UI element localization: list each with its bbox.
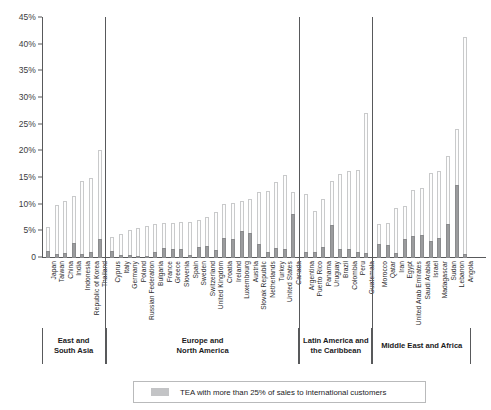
category-label: Morocco bbox=[382, 261, 389, 287]
bar-segment-international bbox=[330, 225, 334, 258]
category-label: United Arab Emirates bbox=[416, 261, 423, 325]
bar-poland bbox=[136, 228, 140, 257]
bar-segment-international bbox=[110, 251, 114, 258]
y-axis-tick-mark bbox=[38, 203, 42, 204]
legend-swatch-international bbox=[151, 388, 169, 396]
bar-segment-international bbox=[205, 246, 209, 258]
category-label: Japan bbox=[51, 261, 58, 279]
bar-panama bbox=[321, 199, 325, 257]
category-label: Croatia bbox=[227, 261, 234, 283]
bar-turkey bbox=[274, 182, 278, 257]
category-label: Slovak Republic bbox=[261, 261, 268, 310]
bar-germany bbox=[128, 230, 132, 257]
category-label: Angola bbox=[468, 261, 475, 282]
bar-india bbox=[72, 196, 76, 257]
bar-austria bbox=[248, 199, 252, 257]
bar-sweden bbox=[197, 220, 201, 257]
bar-segment-international bbox=[72, 243, 76, 258]
group-label-text: East andSouth Asia bbox=[54, 336, 93, 356]
bar-madagascar bbox=[437, 171, 441, 257]
category-label: Indonesia bbox=[85, 261, 92, 291]
bar-segment-international bbox=[162, 248, 166, 258]
category-label: Puerto Rico bbox=[317, 261, 324, 297]
bar-segment-international bbox=[248, 233, 252, 258]
category-label: Cyprus bbox=[115, 261, 122, 283]
category-label: Brazil bbox=[343, 261, 350, 278]
bar-sudan bbox=[446, 156, 450, 257]
group-label-text: Latin America andthe Caribbean bbox=[303, 336, 369, 356]
bar-segment-international bbox=[266, 252, 270, 258]
category-label: Austria bbox=[253, 261, 260, 282]
category-label: Qatar bbox=[390, 261, 397, 278]
category-label: Lebanon bbox=[459, 261, 466, 287]
bar-segment-international bbox=[377, 244, 381, 258]
chart-figure: 05%10%15%20%25%30%35%40%45% JapanTaiwanC… bbox=[0, 0, 491, 410]
bar-switzerland bbox=[205, 217, 209, 257]
bar-segment-international bbox=[347, 249, 351, 258]
bar-japan bbox=[46, 227, 50, 257]
bar-lebanon bbox=[455, 129, 459, 257]
plot-area: 05%10%15%20%25%30%35%40%45% bbox=[42, 17, 486, 257]
group-separator bbox=[372, 17, 373, 328]
category-label: Greece bbox=[175, 261, 182, 283]
bar-cyprus bbox=[110, 237, 114, 257]
category-label: Slovenia bbox=[184, 261, 191, 287]
category-label: Egypt bbox=[407, 261, 414, 278]
bar-segment-international bbox=[437, 238, 441, 258]
category-label: Switzerland bbox=[210, 261, 217, 296]
bar-segment-international bbox=[145, 256, 149, 258]
category-label: India bbox=[76, 261, 83, 276]
bar-republic-of-korea bbox=[89, 178, 93, 257]
category-label: Netherlands bbox=[270, 261, 277, 298]
bar-segment-international bbox=[153, 252, 157, 258]
chart-legend: TEA with more than 25% of sales to inter… bbox=[133, 381, 426, 403]
category-label: Taiwan bbox=[59, 261, 66, 282]
bar-saudi-arabia bbox=[420, 188, 424, 257]
bar-segment-international bbox=[188, 255, 192, 258]
category-label: Madagascar bbox=[442, 261, 449, 298]
bar-segment-international bbox=[420, 235, 424, 258]
category-label: Sweden bbox=[201, 261, 208, 285]
bar-iran bbox=[394, 208, 398, 257]
category-label: Sudan bbox=[451, 261, 458, 281]
bar-slovak-republic bbox=[257, 192, 261, 257]
bar-indonesia bbox=[80, 181, 84, 257]
bar-morocco bbox=[377, 224, 381, 257]
bar-segment-international bbox=[257, 244, 261, 258]
bar-united-states bbox=[283, 175, 287, 257]
bar-segment-international bbox=[55, 254, 59, 258]
bar-segment-international bbox=[386, 245, 390, 258]
bar-brazil bbox=[338, 174, 342, 257]
bar-segment-international bbox=[321, 247, 325, 258]
bar-spain bbox=[188, 222, 192, 257]
bar-thailand bbox=[98, 150, 102, 257]
bar-guatemala bbox=[364, 113, 368, 257]
group-label-text: Europe andNorth America bbox=[177, 336, 229, 356]
group-label-box: Europe andNorth America bbox=[106, 328, 300, 364]
bar-segment-international bbox=[179, 249, 183, 258]
y-axis-tick-mark bbox=[38, 150, 42, 151]
bar-china bbox=[63, 201, 67, 257]
bar-angola bbox=[463, 37, 467, 257]
bar-ireland bbox=[231, 203, 235, 257]
category-label: France bbox=[167, 261, 174, 282]
category-label: Saudi Arabia bbox=[425, 261, 432, 300]
bar-slovenia bbox=[179, 222, 183, 257]
group-label-box: Middle East and Africa bbox=[372, 328, 471, 364]
category-label: Argentina bbox=[309, 261, 316, 290]
bar-segment-international bbox=[231, 239, 235, 258]
bar-segment-international bbox=[411, 236, 415, 258]
bar-segment-international bbox=[80, 254, 84, 258]
category-label: Spain bbox=[193, 261, 200, 278]
bar-italy bbox=[119, 234, 123, 257]
bar-segment-international bbox=[197, 247, 201, 258]
bar-segment-international bbox=[274, 248, 278, 258]
bar-peru bbox=[356, 170, 360, 257]
category-label: Colombia bbox=[352, 261, 359, 290]
category-label: Turkey bbox=[279, 261, 286, 282]
bar-segment-international bbox=[394, 253, 398, 258]
y-axis-tick-mark bbox=[38, 17, 42, 18]
y-axis-tick-mark bbox=[38, 97, 42, 98]
category-label: China bbox=[68, 261, 75, 279]
category-label: Ireland bbox=[236, 261, 243, 282]
